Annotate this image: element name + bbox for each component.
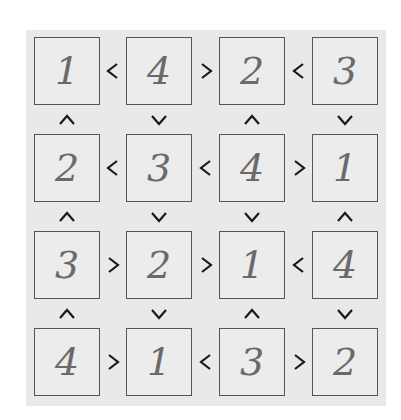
- chevron-down-icon: [334, 303, 356, 325]
- grid-cell-r1-c3[interactable]: 2: [219, 37, 285, 105]
- less-than-icon: [288, 60, 310, 82]
- greater-than-icon: [195, 254, 217, 276]
- cell-digit: 3: [55, 246, 79, 284]
- grid-cell-r4-c3[interactable]: 3: [219, 328, 285, 396]
- grid-cell-r3-c1[interactable]: 3: [34, 231, 100, 299]
- grid-cell-r1-c1[interactable]: 1: [34, 37, 100, 105]
- grid-cell-r4-c2[interactable]: 1: [126, 328, 192, 396]
- cell-digit: 2: [55, 149, 79, 187]
- cell-digit: 3: [240, 343, 264, 381]
- grid-cell-r4-c1[interactable]: 4: [34, 328, 100, 396]
- grid-cell-r1-c4[interactable]: 3: [312, 37, 378, 105]
- cell-digit: 2: [147, 246, 171, 284]
- grid-cell-r3-c2[interactable]: 2: [126, 231, 192, 299]
- less-than-icon: [195, 157, 217, 179]
- greater-than-icon: [288, 351, 310, 373]
- chevron-down-icon: [148, 109, 170, 131]
- cell-digit: 3: [333, 52, 357, 90]
- chevron-up-icon: [56, 206, 78, 228]
- less-than-icon: [288, 254, 310, 276]
- chevron-up-icon: [56, 303, 78, 325]
- grid-cell-r2-c3[interactable]: 4: [219, 134, 285, 202]
- less-than-icon: [195, 351, 217, 373]
- cell-digit: 3: [147, 149, 171, 187]
- cell-digit: 1: [240, 246, 264, 284]
- chevron-up-icon: [241, 303, 263, 325]
- chevron-down-icon: [334, 109, 356, 131]
- grid-cell-r1-c2[interactable]: 4: [126, 37, 192, 105]
- grid-cell-r4-c4[interactable]: 2: [312, 328, 378, 396]
- chevron-down-icon: [148, 206, 170, 228]
- cell-digit: 1: [333, 149, 357, 187]
- cell-digit: 4: [147, 52, 171, 90]
- greater-than-icon: [102, 351, 124, 373]
- chevron-down-icon: [241, 206, 263, 228]
- chevron-up-icon: [334, 206, 356, 228]
- grid-cell-r2-c2[interactable]: 3: [126, 134, 192, 202]
- greater-than-icon: [102, 254, 124, 276]
- grid-cell-r3-c4[interactable]: 4: [312, 231, 378, 299]
- greater-than-icon: [195, 60, 217, 82]
- cell-digit: 1: [147, 343, 171, 381]
- cell-digit: 4: [333, 246, 357, 284]
- grid-cell-r2-c4[interactable]: 1: [312, 134, 378, 202]
- grid-cell-r3-c3[interactable]: 1: [219, 231, 285, 299]
- cell-digit: 2: [333, 343, 357, 381]
- cell-digit: 1: [55, 52, 79, 90]
- chevron-up-icon: [241, 109, 263, 131]
- cell-digit: 2: [240, 52, 264, 90]
- less-than-icon: [102, 157, 124, 179]
- grid-cell-r2-c1[interactable]: 2: [34, 134, 100, 202]
- cell-digit: 4: [240, 149, 264, 187]
- chevron-down-icon: [148, 303, 170, 325]
- less-than-icon: [102, 60, 124, 82]
- chevron-up-icon: [56, 109, 78, 131]
- cell-digit: 4: [55, 343, 79, 381]
- greater-than-icon: [288, 157, 310, 179]
